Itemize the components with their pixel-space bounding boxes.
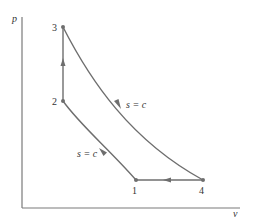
state-label-4: 4 — [199, 185, 204, 196]
state-point-2 — [61, 99, 65, 103]
process-1-2 — [63, 101, 136, 180]
arrow-up-icon — [61, 58, 66, 66]
state-point-3 — [61, 25, 65, 29]
state-label-2: 2 — [52, 96, 57, 107]
process-label-1-2: s = c — [77, 148, 98, 159]
x-axis-label: v — [233, 208, 238, 219]
arrow-left-icon — [163, 178, 171, 183]
arrow-upleft-icon — [99, 148, 107, 156]
state-label-3: 3 — [52, 22, 57, 33]
state-point-4 — [201, 178, 205, 182]
process-label-3-4: s = c — [126, 99, 147, 110]
pv-diagram: p v 1 2 3 4 s = c s = c — [0, 0, 255, 223]
y-axis-label: p — [11, 13, 17, 24]
state-point-1 — [134, 178, 138, 182]
state-label-1: 1 — [132, 185, 137, 196]
